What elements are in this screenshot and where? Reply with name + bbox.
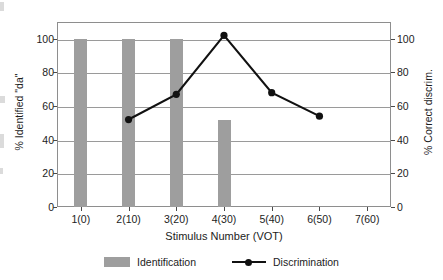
y-axis-right-tick-label: 40 <box>397 135 409 145</box>
legend-item-label: Discrimination <box>273 256 339 268</box>
line-series-discrimination <box>57 22 391 207</box>
y-axis-left-title: % Identified "da" <box>13 57 25 167</box>
y-axis-right-tick-label: 20 <box>397 168 409 178</box>
legend-item: Discrimination <box>232 256 339 268</box>
x-axis-tick-label: 6(50) <box>307 213 332 225</box>
x-axis-tick-label: 3(20) <box>164 213 189 225</box>
data-point-marker <box>316 113 323 120</box>
y-axis-left-tick-label: 100 <box>0 34 54 44</box>
y-axis-left-tick-mark <box>53 106 57 107</box>
x-axis-title: Stimulus Number (VOT) <box>57 230 391 242</box>
x-axis-tick-mark <box>129 207 130 211</box>
x-axis-tick-label: 7(60) <box>355 213 380 225</box>
x-axis-tick-mark <box>272 207 273 211</box>
y-axis-left-tick-mark <box>53 140 57 141</box>
legend-item: Identification <box>104 256 196 268</box>
y-axis-left-tick-mark <box>53 173 57 174</box>
y-axis-left-tick-label: 80 <box>0 67 54 77</box>
x-axis-tick-label: 2(10) <box>116 213 141 225</box>
chart-figure: 100806040200100806040200 1(0)2(10)3(20)4… <box>0 0 443 280</box>
x-axis-tick-mark <box>176 207 177 211</box>
y-axis-right-tick-label: 60 <box>397 101 409 111</box>
x-axis-tick-mark <box>224 207 225 211</box>
y-axis-left-tick-mark <box>53 72 57 73</box>
y-axis-right-tick-label: 100 <box>397 34 415 44</box>
discrimination-line <box>129 35 320 119</box>
y-axis-left-tick-label: 60 <box>0 101 54 111</box>
y-axis-right-tick-label: 0 <box>397 202 403 212</box>
chart-legend: IdentificationDiscrimination <box>0 256 443 268</box>
x-axis-tick-label: 1(0) <box>72 213 91 225</box>
y-axis-right-tick-mark <box>391 207 395 208</box>
y-axis-right-title: % Correct discrim. <box>422 47 434 177</box>
x-axis-tick-label: 5(40) <box>259 213 284 225</box>
y-axis-right-tick-mark <box>391 106 395 107</box>
x-axis-tick-label: 4(30) <box>212 213 237 225</box>
x-axis-tick-mark <box>367 207 368 211</box>
data-point-marker <box>173 91 180 98</box>
legend-bar-swatch-icon <box>104 257 130 267</box>
y-axis-right-tick-label: 80 <box>397 67 409 77</box>
y-axis-left-tick-mark <box>53 207 57 208</box>
x-axis-tick-mark <box>319 207 320 211</box>
y-axis-left-tick-label: 40 <box>0 135 54 145</box>
y-axis-right-tick-mark <box>391 72 395 73</box>
y-axis-right-tick-mark <box>391 173 395 174</box>
x-axis-tick-mark <box>81 207 82 211</box>
y-axis-right-tick-mark <box>391 39 395 40</box>
legend-item-label: Identification <box>137 256 196 268</box>
y-axis-left-tick-mark <box>53 39 57 40</box>
y-axis-right-tick-mark <box>391 140 395 141</box>
data-point-marker <box>125 116 132 123</box>
y-axis-left-tick-label: 0 <box>0 202 54 212</box>
legend-line-marker-icon <box>232 257 266 267</box>
data-point-marker <box>268 89 275 96</box>
discrimination-markers <box>125 32 323 123</box>
y-axis-left-tick-label: 20 <box>0 168 54 178</box>
data-point-marker <box>220 32 227 39</box>
